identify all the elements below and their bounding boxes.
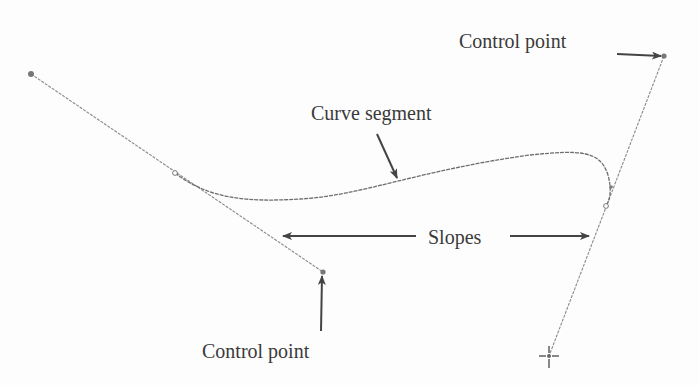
slopes-label: Slopes — [428, 227, 481, 247]
control-point-top-label: Control point — [459, 31, 566, 51]
crosshair-icon — [539, 346, 559, 368]
left-endpoint-icon — [28, 71, 34, 77]
arrow-to-right-control-point — [617, 54, 661, 56]
arrow-to-left-control-point — [321, 276, 322, 331]
right-control-point-icon — [661, 53, 666, 58]
left-tangent-marker-icon — [173, 171, 178, 176]
arrow-to-curve-segment — [377, 134, 397, 178]
diagram-canvas: Control point Curve segment Slopes Contr… — [0, 0, 699, 385]
left-control-point-icon — [320, 269, 325, 274]
curve-segment-label: Curve segment — [311, 103, 432, 123]
curve-segment-path — [175, 152, 610, 206]
curve-junction-marker-icon — [609, 185, 613, 189]
right-tangent-marker-icon — [604, 204, 609, 209]
diagram-graphic — [0, 0, 699, 385]
control-point-bottom-label: Control point — [202, 341, 309, 361]
